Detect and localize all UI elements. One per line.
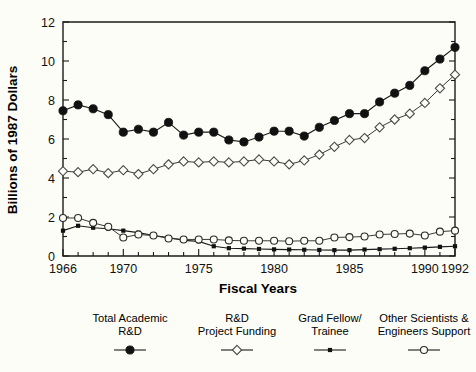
data-point	[149, 128, 157, 136]
x-tick-label: 1990	[411, 262, 439, 276]
data-point	[73, 168, 82, 177]
data-point	[164, 118, 172, 126]
data-point	[149, 165, 158, 174]
x-tick-label: 1966	[49, 262, 77, 276]
data-point	[240, 138, 248, 146]
y-tick-label: 2	[48, 211, 55, 225]
data-point	[180, 131, 188, 139]
x-tick-label: 1970	[109, 262, 137, 276]
data-point	[451, 43, 459, 51]
data-point	[391, 89, 399, 97]
legend-label: R&D	[225, 312, 249, 324]
data-point	[135, 231, 142, 238]
data-point	[360, 110, 368, 118]
legend-label: Project Funding	[198, 325, 276, 337]
data-point	[302, 248, 306, 252]
data-point	[271, 237, 278, 244]
chart-legend: Total AcademicR&DR&DProject FundingGrad …	[92, 312, 471, 355]
data-point	[165, 235, 172, 242]
data-point	[90, 219, 97, 226]
data-point	[194, 158, 203, 167]
data-point	[104, 111, 112, 119]
data-point	[328, 348, 332, 352]
data-point	[121, 229, 125, 233]
data-point	[254, 155, 263, 164]
data-point	[436, 228, 443, 235]
data-point	[240, 237, 247, 244]
data-point	[224, 158, 233, 167]
data-point	[225, 136, 233, 144]
data-point	[61, 229, 65, 233]
data-point	[257, 247, 261, 251]
data-point	[255, 133, 263, 141]
data-point	[256, 237, 263, 244]
line-chart: 024681012 1966197019751980198519901992 T…	[0, 0, 476, 372]
data-point	[405, 109, 414, 118]
data-point	[210, 128, 218, 136]
data-point	[317, 248, 321, 252]
series-0	[59, 43, 459, 146]
data-point	[195, 236, 202, 243]
data-point	[270, 127, 278, 135]
data-point	[347, 248, 351, 252]
data-point	[453, 244, 457, 248]
data-point	[209, 157, 218, 166]
data-point	[423, 246, 427, 250]
data-point	[227, 246, 231, 250]
x-tick-label: 1980	[260, 262, 288, 276]
data-point	[421, 347, 428, 354]
data-point	[436, 55, 444, 63]
data-point	[285, 160, 294, 169]
legend-label: Trainee	[311, 325, 349, 337]
data-point	[408, 246, 412, 250]
legend-label: R&D	[118, 325, 142, 337]
series-layer	[58, 43, 459, 252]
data-point	[316, 237, 323, 244]
data-point	[212, 244, 216, 248]
data-point	[150, 232, 157, 239]
data-point	[378, 247, 382, 251]
y-tick-label: 12	[41, 16, 55, 30]
data-point	[301, 237, 308, 244]
data-point	[393, 247, 397, 251]
data-point	[239, 157, 248, 166]
data-point	[391, 230, 398, 237]
data-point	[180, 236, 187, 243]
data-point	[421, 67, 429, 75]
data-point	[58, 167, 67, 176]
data-point	[195, 128, 203, 136]
data-point	[119, 166, 128, 175]
legend-label: Grad Fellow/	[298, 312, 362, 324]
data-point	[300, 156, 309, 165]
x-tick-label: 1985	[336, 262, 364, 276]
chart-figure: 024681012 1966197019751980198519901992 T…	[0, 0, 476, 372]
data-point	[232, 345, 241, 354]
data-point	[287, 247, 291, 251]
data-point	[361, 233, 368, 240]
data-point	[376, 98, 384, 106]
data-point	[74, 101, 82, 109]
data-point	[134, 125, 142, 133]
y-tick-label: 10	[41, 55, 55, 69]
data-point	[406, 230, 413, 237]
x-axis-title: Fiscal Years	[219, 281, 297, 296]
y-tick-label: 6	[48, 133, 55, 147]
data-point	[330, 142, 339, 151]
data-point	[331, 234, 338, 241]
data-point	[210, 236, 217, 243]
data-point	[315, 123, 323, 131]
data-point	[362, 247, 366, 251]
data-point	[242, 246, 246, 250]
data-point	[438, 245, 442, 249]
data-point	[286, 238, 293, 245]
data-point	[285, 127, 293, 135]
data-point	[134, 170, 143, 179]
data-point	[332, 248, 336, 252]
data-point	[360, 133, 369, 142]
data-point	[272, 247, 276, 251]
data-point	[105, 223, 112, 230]
y-tick-label: 8	[48, 94, 55, 108]
data-point	[345, 110, 353, 118]
data-point	[406, 81, 414, 89]
data-point	[75, 214, 82, 221]
